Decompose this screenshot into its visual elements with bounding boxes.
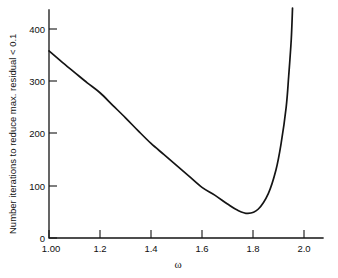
- axis-lines: [49, 10, 323, 238]
- x-tick-marks: [49, 230, 304, 238]
- x-tick-label-2-0: 2.0: [297, 243, 310, 254]
- line-chart: 400 300 200 100 0 1.00 1.2 1.4 1.6 1.8 2…: [0, 0, 338, 278]
- y-tick-marks: [49, 29, 57, 238]
- x-tick-label-1-6: 1.6: [195, 243, 208, 254]
- data-curve-iterations: [49, 8, 293, 213]
- y-tick-label-100: 100: [29, 181, 45, 192]
- x-tick-labels: 1.00 1.2 1.4 1.6 1.8 2.0: [42, 243, 311, 254]
- x-tick-label-1-2: 1.2: [93, 243, 106, 254]
- x-tick-label-1-8: 1.8: [246, 243, 259, 254]
- y-axis-title: Number iterations to reduce max. residua…: [7, 34, 18, 234]
- x-tick-label-1-4: 1.4: [144, 243, 157, 254]
- y-tick-label-200: 200: [29, 128, 45, 139]
- x-tick-label-1-00: 1.00: [42, 243, 61, 254]
- y-tick-labels: 400 300 200 100 0: [29, 24, 45, 244]
- x-axis-title: ω: [174, 258, 181, 270]
- figure-container: 400 300 200 100 0 1.00 1.2 1.4 1.6 1.8 2…: [0, 0, 338, 278]
- y-tick-label-300: 300: [29, 76, 45, 87]
- y-tick-label-400: 400: [29, 24, 45, 35]
